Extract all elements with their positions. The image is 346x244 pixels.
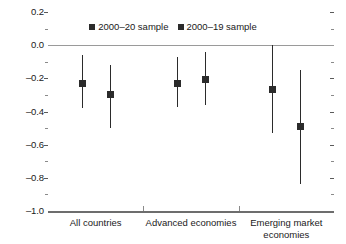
y-axis-tick-mark: [44, 12, 48, 13]
legend-label: 2000–20 sample: [98, 22, 168, 32]
y-axis-tick-mark: [44, 145, 48, 146]
y-axis-tick-label: –1.0: [2, 206, 44, 216]
data-point-marker: [174, 80, 181, 87]
data-point-marker: [297, 123, 304, 130]
category-separator-tick: [239, 206, 240, 211]
x-axis-category-label: Emerging marketeconomies: [239, 217, 334, 240]
y-axis-tick-mark-right: [330, 78, 334, 79]
data-point-marker: [202, 76, 209, 83]
zero-reference-line: [48, 45, 334, 46]
category-label-line2: economies: [239, 229, 334, 241]
y-axis-tick-label: –0.6: [2, 140, 44, 150]
chart-container: 0.20.0–0.2–0.4–0.6–0.8–1.0All countriesA…: [0, 0, 346, 244]
legend-entry[interactable]: 2000–19 sample: [178, 22, 257, 32]
data-point-marker: [269, 86, 276, 93]
y-axis-tick-mark-right: [330, 12, 334, 13]
y-axis-minor-tick-right: [331, 62, 334, 63]
x-axis-category-label: Advanced economies: [143, 217, 238, 229]
y-axis-tick-label: 0.2: [2, 7, 44, 17]
y-axis-tick-mark-right: [330, 178, 334, 179]
y-axis-tick-mark: [44, 112, 48, 113]
x-axis-category-label: All countries: [48, 217, 143, 229]
y-axis-minor-tick: [45, 161, 48, 162]
x-axis-baseline: [48, 211, 334, 213]
y-axis-tick-mark-right: [330, 145, 334, 146]
y-axis-tick-label: 0.0: [2, 40, 44, 50]
category-label-line1: Emerging market: [239, 217, 334, 229]
legend-square-marker-icon: [178, 24, 184, 30]
y-axis-tick-label: –0.8: [2, 173, 44, 183]
y-axis-tick-mark-right: [330, 112, 334, 113]
y-axis-minor-tick-right: [331, 194, 334, 195]
data-point-marker: [107, 91, 114, 98]
chart-legend: 2000–20 sample2000–19 sample: [0, 22, 346, 32]
plot-area: [48, 12, 334, 211]
y-axis-minor-tick-right: [331, 128, 334, 129]
y-axis-tick-mark: [44, 78, 48, 79]
legend-entry[interactable]: 2000–20 sample: [89, 22, 168, 32]
y-axis-tick-label: –0.2: [2, 73, 44, 83]
y-axis-tick-mark: [44, 178, 48, 179]
legend-square-marker-icon: [89, 24, 95, 30]
y-axis-minor-tick-right: [331, 95, 334, 96]
data-point-marker: [79, 80, 86, 87]
y-axis-tick-label: –0.4: [2, 107, 44, 117]
y-axis-minor-tick: [45, 128, 48, 129]
y-axis-minor-tick: [45, 95, 48, 96]
legend-label: 2000–19 sample: [187, 22, 257, 32]
y-axis-minor-tick: [45, 62, 48, 63]
y-axis-minor-tick: [45, 194, 48, 195]
category-separator-tick: [143, 206, 144, 211]
category-label-line1: Advanced economies: [143, 217, 238, 229]
y-axis-minor-tick-right: [331, 161, 334, 162]
category-label-line1: All countries: [48, 217, 143, 229]
